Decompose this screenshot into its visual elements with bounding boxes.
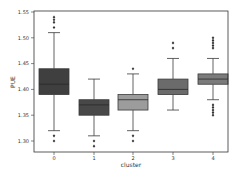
- y-axis-ticks: 1.301.351.401.451.501.55: [18, 9, 34, 144]
- outlier-marker: [172, 47, 175, 50]
- iqr-box: [118, 95, 148, 110]
- x-axis-label: cluster: [121, 161, 142, 168]
- box-cluster-1: [79, 79, 109, 148]
- outlier-marker: [172, 41, 175, 44]
- y-tick-label: 1.30: [18, 138, 29, 144]
- box-cluster-3: [158, 41, 188, 110]
- box-plot-chart: 1.301.351.401.451.501.55 01234 cluster P…: [0, 0, 246, 175]
- x-tick-label: 3: [171, 155, 174, 161]
- x-axis-ticks: 01234: [52, 152, 214, 161]
- outlier-marker: [53, 26, 56, 29]
- y-tick-label: 1.35: [18, 112, 29, 118]
- y-tick-label: 1.40: [18, 86, 29, 92]
- box-cluster-2: [118, 67, 148, 142]
- x-tick-label: 1: [92, 155, 95, 161]
- outlier-marker: [212, 114, 215, 117]
- x-tick-label: 0: [52, 155, 55, 161]
- outlier-marker: [132, 134, 135, 137]
- outlier-marker: [132, 67, 135, 70]
- outlier-marker: [212, 47, 215, 50]
- outlier-marker: [53, 139, 56, 142]
- y-axis-label: PUE: [9, 76, 16, 88]
- y-tick-label: 1.50: [18, 35, 29, 41]
- y-tick-label: 1.45: [18, 60, 29, 66]
- y-tick-label: 1.55: [18, 9, 29, 15]
- x-tick-label: 4: [211, 155, 214, 161]
- outlier-marker: [93, 145, 96, 148]
- box-cluster-4: [198, 36, 228, 117]
- outlier-marker: [132, 139, 135, 142]
- iqr-box: [39, 69, 69, 95]
- box-cluster-0: [39, 16, 69, 143]
- plot-area: [39, 16, 228, 148]
- iqr-box: [158, 79, 188, 94]
- outlier-marker: [53, 21, 56, 24]
- outlier-marker: [93, 139, 96, 142]
- outlier-marker: [53, 134, 56, 137]
- iqr-box: [79, 100, 109, 115]
